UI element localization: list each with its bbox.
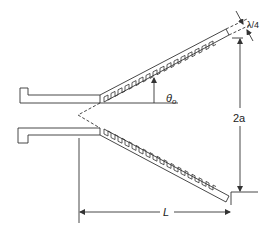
upper-corrugated-wall <box>100 29 229 102</box>
apex-dashed-lines <box>78 19 250 128</box>
angle-label: θo <box>166 92 177 106</box>
lower-waveguide-wall <box>18 128 100 143</box>
corrugated-horn-diagram: θo 2a L λ/4 <box>0 0 275 232</box>
length-dimension <box>79 138 230 223</box>
groove-depth-label: λ/4 <box>247 20 259 30</box>
lower-corrugated-wall <box>100 129 258 205</box>
length-label: L <box>163 206 169 218</box>
aperture-label: 2a <box>233 112 246 124</box>
upper-waveguide-wall <box>20 88 100 103</box>
